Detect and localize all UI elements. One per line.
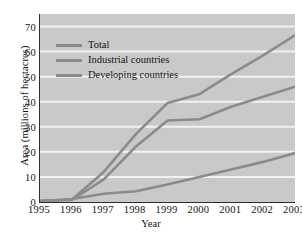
line-chart-figure: Area (millions of hectacres) 01020304050… [0, 0, 302, 233]
x-tick-label: 1999 [156, 204, 178, 215]
x-tick-label: 2001 [219, 204, 241, 215]
legend-swatch-icon [56, 74, 82, 77]
legend-label: Total [88, 40, 109, 51]
legend-item-industrial-countries: Industrial countries [56, 53, 226, 68]
x-tick-label: 2000 [187, 204, 209, 215]
y-tick-label: 70 [14, 21, 36, 32]
legend-item-developing-countries: Developing countries [56, 68, 226, 83]
x-axis-tick-labels: 199519961997199819992000200120022003 [0, 204, 302, 218]
legend-swatch-icon [56, 59, 82, 62]
legend-item-total: Total [56, 38, 226, 53]
y-tick-label: 60 [14, 46, 36, 57]
x-tick-label: 2003 [283, 204, 302, 215]
y-tick-label: 30 [14, 121, 36, 132]
x-tick-label: 1995 [28, 204, 50, 215]
y-tick-label: 40 [14, 96, 36, 107]
y-tick-label: 50 [14, 71, 36, 82]
chart-legend: Total Industrial countries Developing co… [56, 38, 226, 83]
x-tick-label: 1998 [124, 204, 146, 215]
x-tick-label: 2002 [251, 204, 273, 215]
x-tick-label: 1996 [60, 204, 82, 215]
y-tick-label: 10 [14, 171, 36, 182]
legend-label: Developing countries [88, 70, 178, 81]
x-axis-title: Year [0, 218, 302, 229]
x-tick-label: 1997 [92, 204, 114, 215]
y-axis-tick-labels: 010203040506070 [14, 0, 36, 233]
legend-swatch-icon [56, 44, 82, 47]
legend-label: Industrial countries [88, 55, 169, 66]
y-tick-label: 20 [14, 146, 36, 157]
